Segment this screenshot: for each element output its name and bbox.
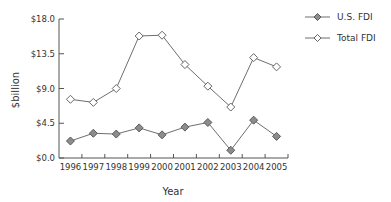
x-tick-label: 2001 [174, 162, 196, 172]
x-tick-label: 2004 [243, 162, 265, 172]
filled-diamond-marker-icon [135, 124, 143, 132]
y-tick-label: $18.0 [31, 14, 55, 24]
filled-diamond-marker-icon [158, 131, 166, 139]
series-line [70, 35, 276, 107]
x-tick-label: 1999 [128, 162, 150, 172]
open-diamond-icon [314, 35, 321, 42]
legend-item-total-fdi: Total FDI [305, 33, 376, 43]
x-axis: 1996199719981999200020012002200320042005 [59, 154, 288, 172]
legend-label: U.S. FDI [337, 12, 373, 22]
series-line [70, 120, 276, 150]
y-axis: $0.0$4.5$9.0$13.5$18.0 [31, 14, 64, 163]
plot-series [66, 31, 280, 154]
filled-diamond-marker-icon [273, 132, 281, 140]
filled-diamond-marker-icon [112, 130, 120, 138]
y-tick-label: $9.0 [36, 84, 55, 94]
filled-diamond-marker-icon [89, 129, 97, 137]
x-tick-label: 2005 [266, 162, 288, 172]
x-tick-label: 1997 [83, 162, 105, 172]
legend-label: Total FDI [336, 33, 376, 43]
open-diamond-marker-icon [89, 98, 97, 106]
open-diamond-marker-icon [135, 32, 143, 40]
y-tick-label: $4.5 [36, 118, 55, 128]
legend: U.S. FDITotal FDI [305, 12, 376, 43]
y-tick-label: $0.0 [36, 153, 55, 163]
open-diamond-marker-icon [112, 85, 120, 93]
legend-item-us-fdi: U.S. FDI [305, 12, 373, 22]
x-tick-label: 2002 [197, 162, 219, 172]
open-diamond-marker-icon [273, 63, 281, 71]
filled-diamond-marker-icon [250, 116, 258, 124]
y-tick-label: $13.5 [31, 49, 55, 59]
x-axis-title: Year [161, 186, 184, 197]
x-tick-label: 1996 [60, 162, 82, 172]
x-tick-label: 1998 [105, 162, 127, 172]
filled-diamond-marker-icon [181, 123, 189, 131]
y-axis-title: $billion [10, 72, 21, 108]
filled-diamond-marker-icon [66, 137, 74, 145]
x-tick-label: 2000 [151, 162, 173, 172]
total-fdi-series [66, 31, 280, 111]
filled-diamond-icon [314, 14, 321, 21]
us-fdi-series [66, 116, 280, 154]
open-diamond-marker-icon [250, 54, 258, 62]
fdi-line-chart: $0.0$4.5$9.0$13.5$18.0 19961997199819992… [0, 0, 391, 202]
x-tick-label: 2003 [220, 162, 242, 172]
open-diamond-marker-icon [66, 95, 74, 103]
